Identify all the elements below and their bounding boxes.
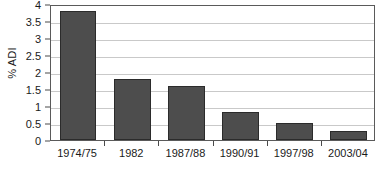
bar-slot xyxy=(51,6,105,140)
bar xyxy=(60,11,97,140)
bar-chart: % ADI 00.511.522.533.54 1974/7519821987/… xyxy=(0,0,388,169)
x-tick-label: 1990/91 xyxy=(220,147,260,159)
x-tick-label: 1987/88 xyxy=(166,147,206,159)
x-tick-label: 1974/75 xyxy=(57,147,97,159)
plot-area xyxy=(50,5,375,141)
bar xyxy=(330,131,367,140)
x-tick-label: 2003/04 xyxy=(328,147,368,159)
x-tick-mark xyxy=(267,141,268,146)
bar-slot xyxy=(322,6,376,140)
bar xyxy=(168,86,205,140)
bar xyxy=(276,123,313,140)
bar xyxy=(114,79,151,140)
y-tick-label: 2.5 xyxy=(26,50,41,62)
y-tick-label: 2 xyxy=(35,67,41,79)
y-tick-label: 3.5 xyxy=(26,16,41,28)
y-tick-label: 1 xyxy=(35,101,41,113)
y-tick-label: 3 xyxy=(35,33,41,45)
bar-slot xyxy=(105,6,159,140)
x-axis-tick-labels: 1974/7519821987/881990/911997/982003/04 xyxy=(50,147,375,167)
bar-slot xyxy=(159,6,213,140)
x-tick-label: 1982 xyxy=(119,147,143,159)
bars-layer xyxy=(51,6,374,140)
x-tick-mark xyxy=(158,141,159,146)
x-tick-mark xyxy=(104,141,105,146)
y-tick-label: 0 xyxy=(35,135,41,147)
bar-slot xyxy=(268,6,322,140)
y-tick-label: 0.5 xyxy=(26,118,41,130)
y-tick-label: 1.5 xyxy=(26,84,41,96)
x-tick-mark xyxy=(213,141,214,146)
y-tick-label: 4 xyxy=(35,0,41,11)
x-tick-label: 1997/98 xyxy=(274,147,314,159)
bar xyxy=(222,112,259,140)
bar-slot xyxy=(214,6,268,140)
y-axis-tick-labels: 00.511.522.533.54 xyxy=(0,0,50,169)
x-tick-mark xyxy=(321,141,322,146)
